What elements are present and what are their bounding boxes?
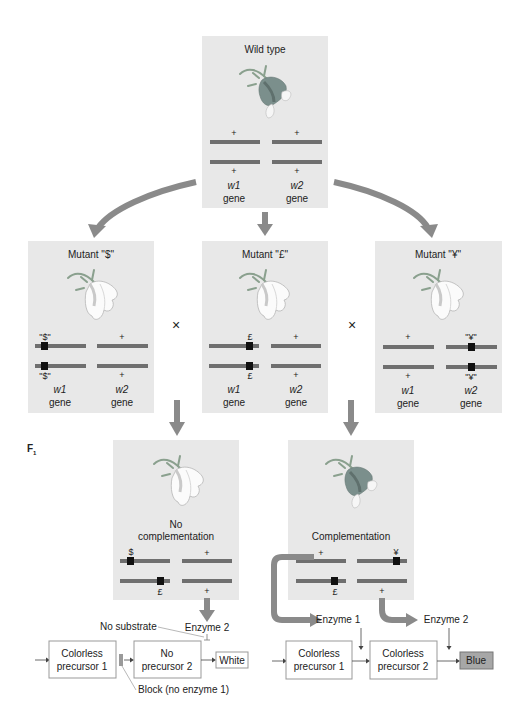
gene1-label: gene: [49, 397, 72, 408]
w2-bottom-allele: +: [294, 166, 299, 176]
mutation-marker: [157, 577, 164, 585]
gene1-label: gene: [223, 397, 246, 408]
w2-bottom-allele: +: [293, 370, 298, 380]
mutation-marker: [41, 342, 48, 350]
mutant-pound-title: Mutant "£": [242, 249, 288, 260]
w2-top-allele: +: [294, 128, 299, 138]
enzyme2-label: Enzyme 2: [424, 614, 469, 625]
colorless-precursor-1-box: [49, 641, 116, 678]
mutation-marker: [393, 557, 400, 565]
w2-top-allele: "¥": [465, 332, 476, 342]
w1-top-allele: +: [405, 332, 410, 342]
mutation-marker: [246, 362, 253, 370]
block-icon: [119, 654, 123, 666]
gene2-label: gene: [111, 397, 134, 408]
blue-result-label: Blue: [466, 655, 486, 666]
w2-top-allele: +: [293, 332, 298, 342]
w1-bottom-allele: +: [405, 371, 410, 381]
enzyme1-label: Enzyme 1: [316, 614, 361, 625]
wild-type-title: Wild type: [244, 44, 286, 55]
no-complementation-title-2: complementation: [138, 531, 214, 542]
mutant-yen-panel: Mutant "¥" + "¥" + "¥" w1 w2 gene gene: [375, 241, 502, 413]
mutant-dollar-title: Mutant "$": [68, 249, 114, 260]
box2-line1: No: [161, 648, 174, 659]
w1-top-allele: +: [318, 548, 323, 558]
w2-bottom-allele: +: [119, 370, 124, 380]
w2-bottom-allele: +: [204, 586, 209, 596]
gene1-name: w1: [228, 180, 241, 191]
block-label: Block (no enzyme 1): [138, 684, 229, 695]
w2-bottom-allele: +: [379, 586, 384, 596]
box2-line1: Colorless: [382, 648, 424, 659]
w1-top-allele: "$": [39, 332, 50, 342]
w2-top-allele: +: [204, 548, 209, 558]
w1-bottom-allele: £: [157, 587, 162, 597]
mutation-marker: [41, 362, 48, 370]
mutant-pound-panel: Mutant "£" £ + £ + w1 w2 gene gene: [202, 241, 328, 413]
no-precursor-2-box: [134, 641, 201, 678]
colorless-precursor-1-box: [286, 641, 352, 679]
no-substrate-label: No substrate: [100, 621, 157, 632]
f1-label-subscript: 1: [33, 450, 37, 456]
box2-line2: precursor 2: [142, 661, 193, 672]
gene2-label: gene: [285, 397, 308, 408]
wild-type-panel: Wild type + + + + w1 w2 gene gene: [202, 36, 328, 208]
colorless-precursor-2-box: [370, 641, 437, 679]
mutation-marker: [468, 343, 475, 351]
f1-label: F1: [27, 443, 37, 456]
gene2-label: gene: [286, 193, 309, 204]
cross-symbol: ×: [348, 317, 356, 333]
mutation-marker: [127, 557, 134, 565]
w1-top-allele: £: [247, 332, 252, 342]
no-complementation-title-1: No: [170, 519, 183, 530]
gene1-label: gene: [223, 193, 246, 204]
box1-line2: precursor 1: [57, 661, 108, 672]
gene2-name: w2: [465, 385, 478, 396]
box2-line2: precursor 2: [378, 661, 429, 672]
gene1-name: w1: [54, 384, 67, 395]
w2-bottom-allele: "¥": [465, 372, 476, 382]
mutation-marker: [246, 342, 253, 350]
box1-line2: precursor 1: [294, 661, 345, 672]
box1-line1: Colorless: [298, 648, 340, 659]
w1-top-allele: $: [128, 547, 133, 557]
gene1-name: w1: [402, 385, 415, 396]
w1-bottom-allele: "$": [39, 371, 50, 381]
gene2-name: w2: [116, 384, 129, 395]
no-complementation-panel: No complementation $ + £ +: [113, 440, 239, 600]
gene2-name: w2: [290, 384, 303, 395]
gene1-label: gene: [397, 398, 420, 409]
pathway-no-complementation: Enzyme 2 No substrate Colorless precurso…: [35, 598, 248, 695]
complementation-title: Complementation: [312, 531, 390, 542]
w1-bottom-allele: +: [231, 166, 236, 176]
w2-top-allele: +: [119, 332, 124, 342]
gene2-label: gene: [460, 398, 483, 409]
w1-top-allele: +: [231, 128, 236, 138]
complementation-diagram: Wild type + + + + w1 w2 gene gene Mutant…: [0, 0, 527, 723]
gene1-name: w1: [228, 384, 241, 395]
box1-line1: Colorless: [61, 648, 103, 659]
w2-top-allele: ¥: [392, 547, 399, 557]
complementation-panel: Complementation + ¥ £ +: [288, 440, 414, 600]
cross-symbol: ×: [172, 317, 180, 333]
w1-bottom-allele: £: [332, 587, 337, 597]
mutant-dollar-panel: Mutant "$" "$" + "$" + w1 w2 gene gene: [28, 241, 154, 413]
enzyme2-label: Enzyme 2: [185, 622, 230, 633]
mutation-marker: [468, 363, 475, 371]
white-result-label: White: [219, 655, 245, 666]
mutant-yen-title: Mutant "¥": [415, 249, 461, 260]
w1-bottom-allele: £: [247, 371, 252, 381]
gene2-name: w2: [291, 180, 304, 191]
mutation-marker: [331, 577, 338, 585]
